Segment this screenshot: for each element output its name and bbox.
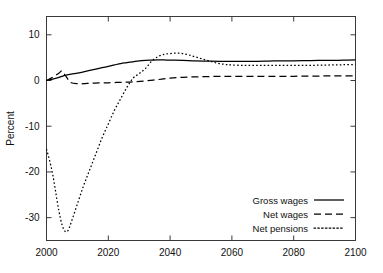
legend-label-gross-wages: Gross wages (253, 195, 309, 206)
chart-legend: Gross wagesNet wagesNet pensions (253, 195, 344, 234)
y-tick-label: -30 (25, 212, 40, 223)
chart-background (0, 0, 383, 273)
legend-label-net-pensions: Net pensions (253, 223, 309, 234)
chart-figure: 200020202040206020802100 100-10-20-30 Pe… (0, 0, 383, 273)
y-tick-label: 0 (34, 75, 40, 86)
y-tick-label: -20 (25, 166, 40, 177)
x-tick-label: 2040 (159, 247, 182, 258)
y-tick-label: 10 (28, 29, 40, 40)
y-tick-label: -10 (25, 121, 40, 132)
line-chart: 200020202040206020802100 100-10-20-30 Pe… (0, 0, 383, 273)
x-tick-label: 2020 (97, 247, 120, 258)
x-tick-label: 2100 (344, 247, 367, 258)
y-axis-title: Percent (5, 111, 16, 146)
legend-label-net-wages: Net wages (263, 209, 308, 220)
x-tick-label: 2000 (35, 247, 58, 258)
x-tick-label: 2060 (221, 247, 244, 258)
x-tick-label: 2080 (283, 247, 306, 258)
y-axis-title-text: Percent (5, 111, 16, 146)
